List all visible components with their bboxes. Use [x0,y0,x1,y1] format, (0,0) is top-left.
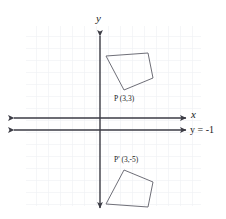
x-axis-label: x [190,108,196,120]
coordinate-plane-figure: y x y = -1 P (3,3) P' (3,-5) [0,0,226,219]
image-point-label: P' (3,-5) [114,155,139,164]
preimage-point-label: P (3,3) [114,94,135,103]
mirror-line-label: y = -1 [190,124,214,135]
geometry-diagram-svg: y x y = -1 P (3,3) P' (3,-5) [0,0,226,219]
y-axis-label: y [95,12,101,24]
grid-rect [26,26,201,206]
grid-layer [26,26,201,206]
